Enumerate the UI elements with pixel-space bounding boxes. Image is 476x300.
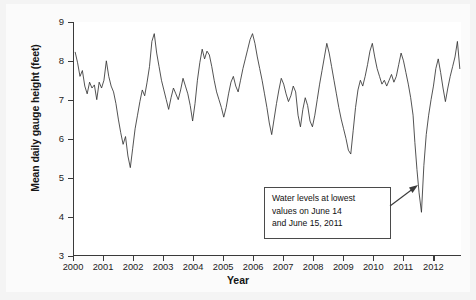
callout-line-1: Water levels at lowest <box>272 192 384 205</box>
x-tick <box>163 256 164 261</box>
y-tick <box>68 178 73 179</box>
y-tick <box>68 61 73 62</box>
callout-line-2: values on June 14 <box>272 205 384 218</box>
x-tick <box>193 256 194 261</box>
x-tick-label: 2012 <box>413 262 453 272</box>
y-tick-label: 5 <box>42 172 64 183</box>
y-tick <box>68 100 73 101</box>
y-tick <box>68 22 73 23</box>
callout-line-3: and June 15, 2011 <box>272 217 384 230</box>
x-tick <box>373 256 374 261</box>
figure-canvas: Mean daily gauge height (feet) 9876543 2… <box>6 4 470 292</box>
chart-figure: Mean daily gauge height (feet) 9876543 2… <box>0 0 476 300</box>
y-tick-label: 6 <box>42 133 64 144</box>
x-tick <box>103 256 104 261</box>
y-tick-label: 7 <box>42 94 64 105</box>
lowest-values-callout: Water levels at lowest values on June 14… <box>264 187 391 239</box>
y-tick-label: 9 <box>42 16 64 27</box>
y-tick <box>68 139 73 140</box>
y-axis-title: Mean daily gauge height (feet) <box>29 0 41 243</box>
x-axis-title: Year <box>6 274 470 286</box>
x-tick <box>433 256 434 261</box>
x-tick <box>403 256 404 261</box>
y-tick-label: 8 <box>42 55 64 66</box>
x-tick <box>253 256 254 261</box>
y-tick <box>68 217 73 218</box>
x-tick <box>313 256 314 261</box>
x-tick <box>73 256 74 261</box>
x-tick <box>343 256 344 261</box>
y-tick-label: 3 <box>42 250 64 261</box>
x-tick <box>283 256 284 261</box>
y-tick-label: 4 <box>42 211 64 222</box>
x-tick <box>223 256 224 261</box>
x-tick <box>133 256 134 261</box>
